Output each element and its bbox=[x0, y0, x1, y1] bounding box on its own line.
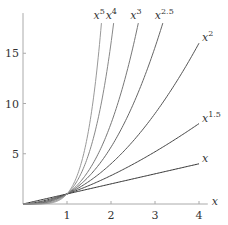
curve-x-4 bbox=[23, 23, 114, 204]
x-axis-label: x bbox=[212, 195, 219, 208]
curve-label: x1.5 bbox=[202, 110, 221, 125]
axes: 123451015x bbox=[5, 13, 219, 222]
x-tick-label: 3 bbox=[152, 209, 159, 222]
curve-label: x2 bbox=[202, 29, 213, 44]
y-tick-label: 10 bbox=[5, 98, 19, 111]
y-tick-label: 15 bbox=[5, 47, 19, 60]
curve-label: x3 bbox=[130, 7, 141, 22]
chart-canvas: 123451015x xx1.5x2x2.5x3x4x5 bbox=[0, 0, 228, 225]
x-tick-label: 2 bbox=[108, 209, 115, 222]
y-tick-label: 5 bbox=[12, 148, 19, 161]
curve-label: x5 bbox=[93, 7, 104, 22]
curve-x-5 bbox=[23, 23, 101, 204]
x-tick-label: 4 bbox=[196, 209, 203, 222]
curve-label: x4 bbox=[106, 7, 117, 22]
curves bbox=[23, 23, 199, 204]
power-functions-chart: 123451015x xx1.5x2x2.5x3x4x5 bbox=[0, 0, 228, 225]
x-tick-label: 1 bbox=[64, 209, 71, 222]
curve-label: x bbox=[202, 152, 209, 165]
curve-x-3 bbox=[23, 23, 138, 204]
curve-x bbox=[23, 164, 199, 204]
curve-label: x2.5 bbox=[155, 7, 174, 22]
